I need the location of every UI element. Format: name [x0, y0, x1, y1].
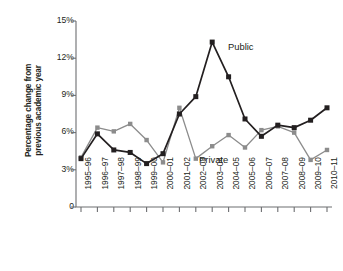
x-tick-label: 2010–11 — [330, 157, 339, 213]
x-tick-label: 1998–99 — [134, 157, 143, 213]
x-tick-label: 2001–02 — [183, 157, 192, 213]
x-tick-label: 2004–05 — [232, 157, 241, 213]
x-tick-label: 1996–97 — [101, 157, 110, 213]
x-tick-label: 1997–98 — [117, 157, 126, 213]
x-tick-label: 2005–06 — [248, 157, 257, 213]
x-axis-tick-labels: 1995–961996–971997–981998–991999–002000–… — [0, 0, 343, 271]
series-label-public: Public — [228, 41, 254, 52]
x-tick-label: 2000–01 — [166, 157, 175, 213]
x-tick-label: 2007–08 — [281, 157, 290, 213]
x-tick-label: 2003–04 — [216, 157, 225, 213]
x-tick-label: 2008–09 — [298, 157, 307, 213]
x-tick-label: 2009–10 — [314, 157, 323, 213]
x-tick-label: 2006–07 — [265, 157, 274, 213]
x-tick-label: 1995–96 — [84, 157, 93, 213]
series-label-private: Private — [199, 154, 228, 165]
chart-container: Percentage change from previous academic… — [0, 0, 343, 271]
x-tick-label: 2002–03 — [199, 157, 208, 213]
x-tick-label: 1999–00 — [150, 157, 159, 213]
